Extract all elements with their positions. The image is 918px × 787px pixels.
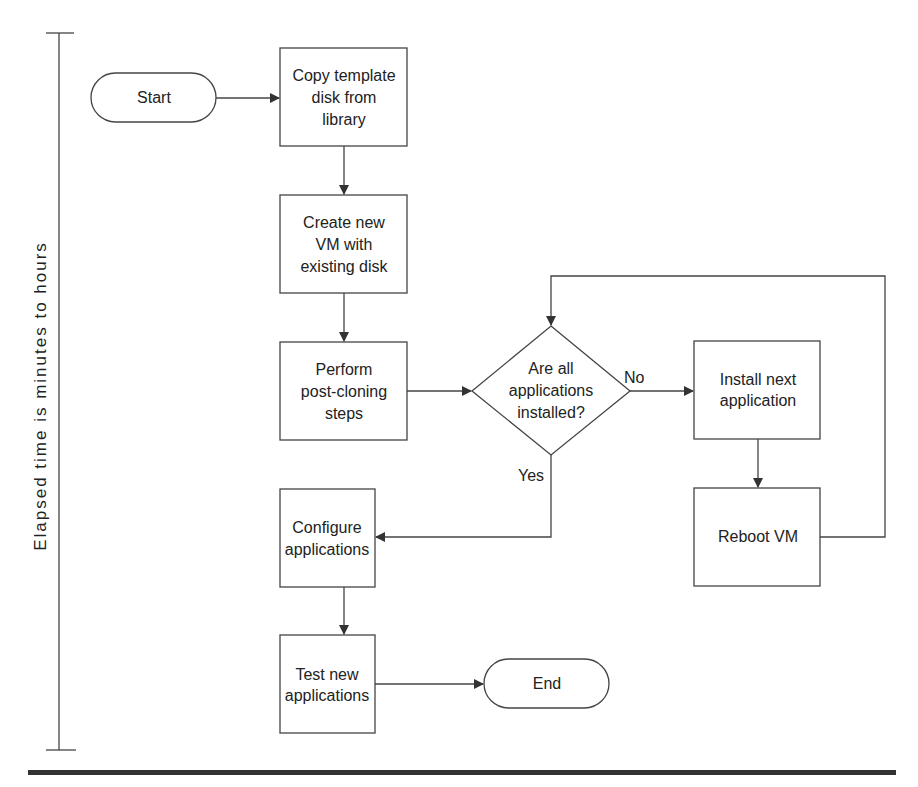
no-edge-label: No <box>624 369 645 386</box>
install-next-line2: application <box>720 392 797 409</box>
configure-line2: applications <box>285 541 370 558</box>
create-vm-step: Create new VM with existing disk <box>280 195 407 293</box>
post-cloning-line3: steps <box>325 405 363 422</box>
start-label: Start <box>137 89 171 106</box>
timeline: Elapsed time is minutes to hours <box>31 33 76 750</box>
post-cloning-line2: post-cloning <box>301 383 387 400</box>
post-cloning-step: Perform post-cloning steps <box>280 342 407 440</box>
copy-template-step: Copy template disk from library <box>280 48 407 146</box>
create-vm-line3: existing disk <box>300 258 388 275</box>
reboot-step: Reboot VM <box>694 488 820 586</box>
timeline-label: Elapsed time is minutes to hours <box>31 241 50 551</box>
end-terminator: End <box>484 659 609 708</box>
install-next-step: Install next application <box>694 341 820 439</box>
decision-line1: Are all <box>528 360 573 377</box>
install-next-line1: Install next <box>720 371 797 388</box>
test-line1: Test new <box>295 666 359 683</box>
yes-edge-label: Yes <box>518 467 544 484</box>
decision-line2: applications <box>509 382 594 399</box>
flowchart: Elapsed time is minutes to hours Start C… <box>0 0 918 787</box>
reboot-label: Reboot VM <box>718 528 798 545</box>
decision-diamond: Are all applications installed? <box>472 326 630 455</box>
end-label: End <box>533 675 561 692</box>
test-line2: applications <box>285 687 370 704</box>
copy-template-line2: disk from <box>312 89 377 106</box>
copy-template-line3: library <box>322 111 366 128</box>
test-step: Test new applications <box>280 635 375 733</box>
create-vm-line1: Create new <box>303 214 385 231</box>
decision-line3: installed? <box>517 404 585 421</box>
post-cloning-line1: Perform <box>316 361 373 378</box>
create-vm-line2: VM with <box>316 236 373 253</box>
configure-step: Configure applications <box>280 489 375 587</box>
start-terminator: Start <box>91 73 216 122</box>
copy-template-line1: Copy template <box>292 67 395 84</box>
bottom-rule <box>28 770 896 775</box>
configure-line1: Configure <box>292 519 361 536</box>
